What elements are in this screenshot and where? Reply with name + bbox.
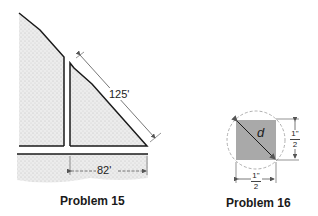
fraction-numerator: 1" <box>291 129 298 138</box>
vertical-side-fraction: 1" 2 <box>290 130 300 149</box>
diagram-canvas <box>0 0 318 216</box>
diagonal-label: d <box>257 125 264 140</box>
problem-16-caption: Problem 16 <box>226 196 291 210</box>
fraction-denominator: 2 <box>293 140 297 149</box>
horizontal-side-fraction: 1" 2 <box>251 172 261 191</box>
problem-16-figure <box>227 111 299 183</box>
left-land-region <box>19 13 64 146</box>
base-length-label: 82' <box>97 164 111 176</box>
lower-land-strip <box>17 154 148 183</box>
problem-15-figure <box>17 13 161 183</box>
slant-length-label: 125' <box>108 88 130 100</box>
problem-15-caption: Problem 15 <box>60 194 125 208</box>
fraction-denominator: 2 <box>254 182 258 191</box>
fraction-numerator: 1" <box>252 171 259 180</box>
